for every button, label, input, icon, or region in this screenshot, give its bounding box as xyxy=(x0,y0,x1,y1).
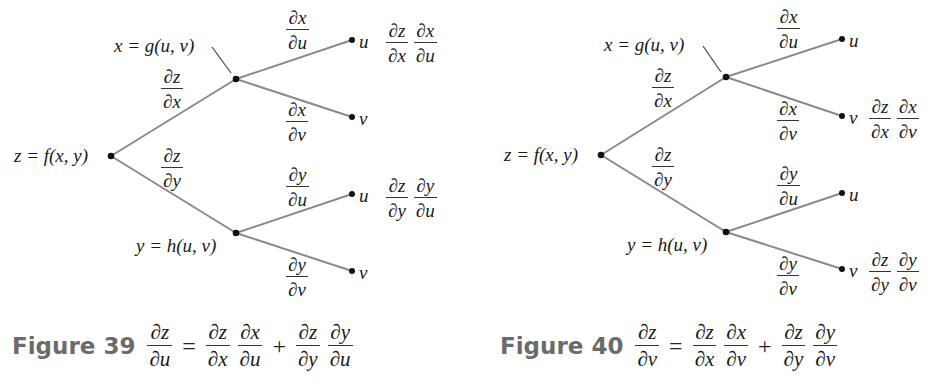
edge-label-dz-dy: ∂z ∂y xyxy=(652,145,674,189)
denominator: ∂y xyxy=(652,166,674,189)
numerator: ∂y xyxy=(777,254,799,275)
root-label: z = f(x, y) xyxy=(14,146,88,165)
edge-label-dx-dv: ∂x ∂v xyxy=(777,99,799,143)
denominator: ∂u xyxy=(328,345,353,370)
path-product: ∂z ∂y ∂y ∂u xyxy=(386,176,437,220)
fraction: ∂z ∂y xyxy=(386,176,408,220)
plus-sign: + xyxy=(270,333,288,360)
edge-label-dx-du: ∂x ∂u xyxy=(286,8,309,52)
numerator: ∂x xyxy=(286,100,308,121)
denominator: ∂x xyxy=(652,87,674,110)
plus-sign: + xyxy=(756,333,774,360)
fraction: ∂y ∂v xyxy=(897,250,919,294)
leaf-node xyxy=(839,190,845,196)
caption-title: Figure 39 xyxy=(12,333,135,359)
denominator: ∂v xyxy=(724,345,748,370)
numerator: ∂y xyxy=(287,165,309,186)
leaf-label-v: v xyxy=(359,263,367,282)
numerator: ∂z xyxy=(149,322,172,345)
edge-label-dy-du: ∂y ∂u xyxy=(286,165,309,209)
numerator: ∂x xyxy=(414,21,436,42)
denominator: ∂x xyxy=(869,118,891,141)
numerator: ∂z xyxy=(870,250,891,271)
numerator: ∂z xyxy=(162,67,183,88)
numerator: ∂z xyxy=(387,176,408,197)
fraction: ∂y ∂v xyxy=(813,322,837,370)
denominator: ∂u xyxy=(286,186,309,209)
equals-sign: = xyxy=(667,333,685,360)
path-product: ∂z ∂x ∂x ∂v xyxy=(869,97,919,141)
denominator: ∂x xyxy=(161,88,183,111)
denominator: ∂v xyxy=(635,345,659,370)
denominator: ∂v xyxy=(286,276,308,299)
y-node-label: y = h(u, v) xyxy=(627,235,707,254)
fraction: ∂z ∂y xyxy=(782,322,806,370)
leaf-node xyxy=(349,37,355,43)
figure-40-caption: Figure 40 ∂z ∂v = ∂z ∂x ∂x ∂v + ∂z ∂y ∂y… xyxy=(500,322,837,370)
denominator: ∂x xyxy=(386,42,408,65)
numerator: ∂x xyxy=(724,322,748,345)
leaf-node xyxy=(839,36,845,42)
leaf-node xyxy=(349,191,355,197)
numerator: ∂y xyxy=(897,250,919,271)
denominator: ∂y xyxy=(869,271,891,294)
numerator: ∂z xyxy=(693,322,716,345)
numerator: ∂x xyxy=(777,99,799,120)
path-product: ∂z ∂y ∂y ∂v xyxy=(869,250,919,294)
fraction: ∂x ∂v xyxy=(724,322,748,370)
numerator: ∂x xyxy=(287,8,309,29)
denominator: ∂v xyxy=(286,121,308,144)
path-product: ∂z ∂x ∂x ∂u xyxy=(386,21,437,65)
fraction: ∂x ∂u xyxy=(414,21,437,65)
edge-label-dz-dx: ∂z ∂x xyxy=(161,67,183,111)
edge-label-dx-du: ∂x ∂u xyxy=(777,7,800,51)
edge-label-dy-dv: ∂y ∂v xyxy=(286,255,308,299)
denominator: ∂v xyxy=(813,345,837,370)
figure-39-caption: Figure 39 ∂z ∂u = ∂z ∂x ∂x ∂u + ∂z ∂y ∂y… xyxy=(12,322,353,370)
y-node-label: y = h(u, v) xyxy=(136,236,216,255)
numerator: ∂z xyxy=(636,322,659,345)
caption-title: Figure 40 xyxy=(500,333,623,359)
lhs-fraction: ∂z ∂u xyxy=(147,322,172,370)
denominator: ∂y xyxy=(782,345,806,370)
numerator: ∂z xyxy=(206,322,229,345)
fraction: ∂y ∂u xyxy=(328,322,353,370)
denominator: ∂u xyxy=(414,197,437,220)
denominator: ∂v xyxy=(777,275,799,298)
leaf-label-v: v xyxy=(359,109,367,128)
leaf-node xyxy=(839,113,845,119)
leaf-label-u: u xyxy=(849,31,859,50)
denominator: ∂u xyxy=(414,42,437,65)
denominator: ∂x xyxy=(693,345,717,370)
numerator: ∂x xyxy=(238,322,262,345)
equals-sign: = xyxy=(180,333,198,360)
root-node xyxy=(598,152,605,159)
x-node xyxy=(233,76,240,83)
denominator: ∂v xyxy=(897,271,919,294)
fraction: ∂y ∂u xyxy=(414,176,437,220)
x-label-pointer xyxy=(703,46,721,72)
denominator: ∂v xyxy=(777,120,799,143)
leaf-label-u: u xyxy=(359,32,369,51)
fraction: ∂z ∂x xyxy=(869,97,891,141)
x-node-label: x = g(u, v) xyxy=(604,35,684,54)
denominator: ∂u xyxy=(238,345,263,370)
denominator: ∂x xyxy=(206,345,230,370)
numerator: ∂z xyxy=(297,322,320,345)
numerator: ∂y xyxy=(414,176,436,197)
leaf-label-u: u xyxy=(849,185,859,204)
edge-label-dy-du: ∂y ∂u xyxy=(777,164,800,208)
edge-label-dz-dx: ∂z ∂x xyxy=(652,66,674,110)
fraction: ∂x ∂v xyxy=(897,97,919,141)
leaf-node xyxy=(349,268,355,274)
denominator: ∂y xyxy=(386,197,408,220)
numerator: ∂x xyxy=(897,97,919,118)
edge-label-dx-dv: ∂x ∂v xyxy=(286,100,308,144)
leaf-label-v: v xyxy=(849,261,857,280)
numerator: ∂y xyxy=(286,255,308,276)
fraction: ∂z ∂x xyxy=(206,322,230,370)
numerator: ∂z xyxy=(653,145,674,166)
fraction: ∂z ∂x xyxy=(386,21,408,65)
numerator: ∂y xyxy=(328,322,352,345)
numerator: ∂z xyxy=(782,322,805,345)
